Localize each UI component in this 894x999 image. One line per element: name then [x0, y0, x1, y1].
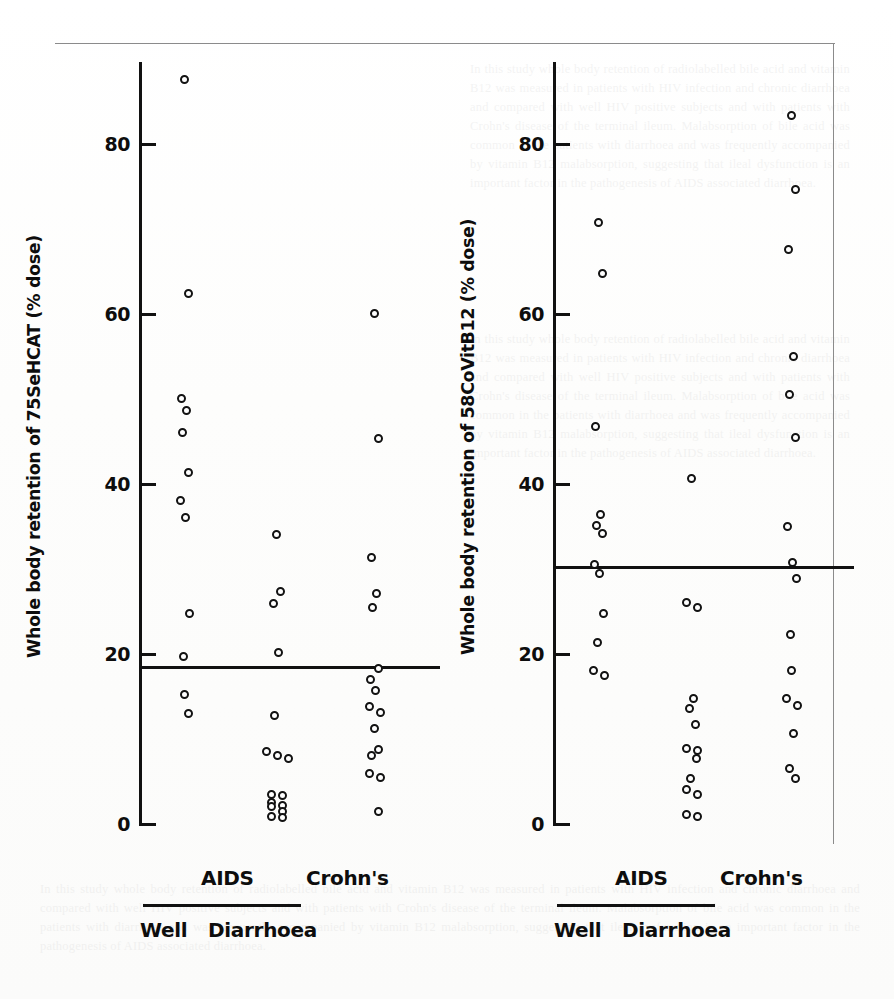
data-point: [685, 704, 694, 713]
panel-sehcat: Whole body retention of 75SeHCAT (% dose…: [0, 0, 460, 999]
data-point: [374, 664, 383, 673]
data-point: [370, 309, 379, 318]
data-point: [693, 603, 702, 612]
data-point: [687, 474, 696, 483]
data-point: [184, 468, 193, 477]
data-point: [595, 569, 604, 578]
data-point: [682, 810, 691, 819]
category-label-crohns-left: Crohn's: [306, 866, 389, 890]
y-tick-60-right: [556, 313, 570, 316]
data-point: [181, 513, 190, 522]
data-point: [682, 744, 691, 753]
data-point: [179, 652, 188, 661]
y-tick-60-left: [142, 313, 156, 316]
data-point: [376, 708, 385, 717]
data-point: [267, 812, 276, 821]
data-point: [180, 690, 189, 699]
data-point: [682, 598, 691, 607]
category-label-diarrhoea-left: Diarrhoea: [208, 918, 317, 942]
data-point: [371, 686, 380, 695]
data-point: [267, 802, 276, 811]
data-point: [184, 289, 193, 298]
data-point: [284, 754, 293, 763]
data-point: [782, 694, 791, 703]
data-point: [269, 599, 278, 608]
data-point: [372, 589, 381, 598]
data-point: [787, 111, 796, 120]
data-point: [178, 428, 187, 437]
y-tick-40-left: [142, 483, 156, 486]
data-point: [785, 764, 794, 773]
data-point: [591, 422, 600, 431]
y-tick-80-left: [142, 143, 156, 146]
y-axis-right: [553, 62, 556, 826]
y-tick-label-40-right: 40: [500, 473, 544, 495]
data-point: [374, 807, 383, 816]
data-point: [693, 790, 702, 799]
y-tick-80-right: [556, 143, 570, 146]
data-point: [273, 751, 282, 760]
y-tick-label-80-left: 80: [86, 133, 130, 155]
data-point: [682, 785, 691, 794]
y-axis-left: [139, 62, 142, 826]
data-point: [791, 774, 800, 783]
panel-covitb12: Whole body retention of 58CoVitB12 (% do…: [434, 0, 894, 999]
y-tick-label-60-left: 60: [86, 303, 130, 325]
data-point: [785, 390, 794, 399]
y-tick-label-0-right: 0: [500, 813, 544, 835]
median-line-left: [140, 666, 440, 669]
category-label-crohns-right: Crohn's: [720, 866, 803, 890]
data-point: [599, 609, 608, 618]
data-point: [791, 185, 800, 194]
aids-group-rule-left: [143, 904, 301, 907]
data-point: [184, 709, 193, 718]
data-point: [365, 702, 374, 711]
data-point: [598, 269, 607, 278]
data-point: [783, 522, 792, 531]
y-axis-title-left: Whole body retention of 75SeHCAT (% dose…: [24, 235, 44, 658]
data-point: [176, 496, 185, 505]
data-point: [278, 813, 287, 822]
data-point: [182, 406, 191, 415]
data-point: [270, 711, 279, 720]
data-point: [276, 587, 285, 596]
y-tick-label-60-right: 60: [500, 303, 544, 325]
data-point: [596, 510, 605, 519]
category-label-diarrhoea-right: Diarrhoea: [622, 918, 731, 942]
category-label-well-right: Well: [554, 918, 601, 942]
y-tick-label-0-left: 0: [86, 813, 130, 835]
data-point: [600, 671, 609, 680]
data-point: [376, 773, 385, 782]
data-point: [598, 529, 607, 538]
y-tick-0-right: [556, 823, 570, 826]
data-point: [366, 675, 375, 684]
y-tick-0-left: [142, 823, 156, 826]
data-point: [593, 638, 602, 647]
category-label-aids-right: AIDS: [615, 866, 668, 890]
data-point: [367, 553, 376, 562]
data-point: [789, 352, 798, 361]
y-tick-label-80-right: 80: [500, 133, 544, 155]
data-point: [692, 754, 701, 763]
y-axis-title-right: Whole body retention of 58CoVitB12 (% do…: [458, 219, 478, 655]
y-tick-20-left: [142, 653, 156, 656]
data-point: [791, 433, 800, 442]
y-tick-label-20-right: 20: [500, 643, 544, 665]
data-point: [272, 530, 281, 539]
data-point: [374, 434, 383, 443]
y-tick-40-right: [556, 483, 570, 486]
data-point: [784, 245, 793, 254]
data-point: [691, 720, 700, 729]
data-point: [689, 694, 698, 703]
data-point: [278, 791, 287, 800]
data-point: [786, 630, 795, 639]
data-point: [589, 666, 598, 675]
data-point: [594, 218, 603, 227]
y-tick-label-20-left: 20: [86, 643, 130, 665]
data-point: [262, 747, 271, 756]
data-point: [177, 394, 186, 403]
data-point: [185, 609, 194, 618]
data-point: [787, 666, 796, 675]
data-point: [686, 774, 695, 783]
y-tick-label-40-left: 40: [86, 473, 130, 495]
